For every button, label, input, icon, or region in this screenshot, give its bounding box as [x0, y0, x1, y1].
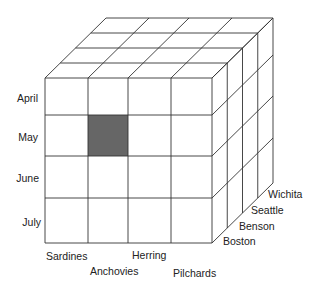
fish-label-sardines: Sardines [46, 251, 87, 262]
data-cube [0, 0, 321, 289]
fish-label-herring: Herring [132, 250, 166, 261]
city-label-seattle: Seattle [251, 205, 284, 216]
city-label-benson: Benson [239, 221, 275, 232]
month-label-april: April [0, 93, 38, 104]
fish-label-anchovies: Anchovies [90, 266, 138, 277]
cube-grid-lines [45, 18, 273, 243]
fish-label-pilchards: Pilchards [173, 268, 216, 279]
city-label-wichita: Wichita [268, 189, 302, 200]
city-label-boston: Boston [223, 236, 256, 247]
month-label-may: May [0, 132, 38, 143]
month-label-june: June [0, 173, 39, 184]
highlighted-cell-may-anchovies-boston [88, 115, 128, 156]
month-label-july: July [0, 217, 41, 228]
